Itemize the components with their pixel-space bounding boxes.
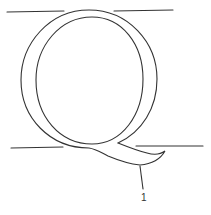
q-diagram [0,0,211,215]
top-left-guide [7,11,64,12]
q-inner-contour [36,17,143,144]
baseline-left-guide [11,147,63,148]
callout-leader-1 [140,166,143,189]
q-outer-contour [21,10,165,165]
callout-label-1: 1 [141,193,147,203]
top-right-guide [114,10,173,11]
